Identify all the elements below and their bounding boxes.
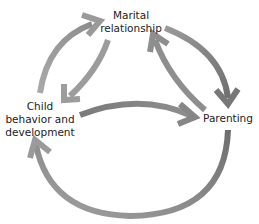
arrow-marital-to-child (64, 40, 108, 100)
node-child-behavior: Child behavior and development (0, 100, 80, 139)
node-label-line: Parenting (198, 112, 258, 125)
arrow-parenting-to-child (30, 130, 228, 216)
node-label-line: Marital (96, 9, 166, 22)
diagram-canvas: Marital relationship Child behavior and … (0, 0, 259, 224)
node-label-line: behavior and (0, 113, 80, 126)
node-parenting: Parenting (198, 112, 258, 125)
node-label-line: relationship (96, 22, 166, 35)
node-label-line: development (0, 126, 80, 139)
node-marital-relationship: Marital relationship (96, 9, 166, 35)
arrow-child-to-parenting (80, 104, 195, 124)
node-label-line: Child (0, 100, 80, 113)
arrow-marital-to-parenting (165, 28, 238, 104)
arrow-child-to-marital (40, 15, 100, 93)
